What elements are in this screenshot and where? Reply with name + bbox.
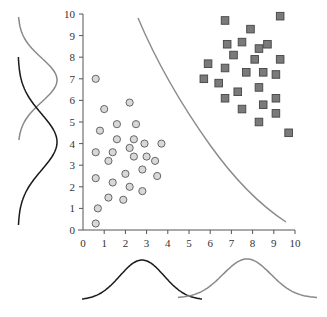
circle-point xyxy=(113,136,120,143)
square-point xyxy=(272,94,280,102)
y-tick-label: 9 xyxy=(70,30,76,42)
square-point xyxy=(251,56,259,64)
circle-point xyxy=(151,157,158,164)
circle-point xyxy=(130,153,137,160)
y-tick-label: 10 xyxy=(64,8,76,20)
circle-point xyxy=(139,188,146,195)
circle-point xyxy=(154,172,161,179)
circle-point xyxy=(92,220,99,227)
square-point xyxy=(204,60,212,68)
x-tick-label: 6 xyxy=(207,237,213,249)
square-point xyxy=(238,105,246,113)
square-point xyxy=(221,94,229,102)
x-tick-label: 0 xyxy=(80,237,86,249)
circle-point xyxy=(139,166,146,173)
y-marginal-distributions xyxy=(18,17,57,225)
boundary-curve xyxy=(138,18,286,222)
circle-point xyxy=(94,205,101,212)
square-point xyxy=(255,84,263,92)
x-tick-label: 7 xyxy=(229,237,235,249)
square-point xyxy=(255,118,263,126)
x-tick-label: 10 xyxy=(290,237,302,249)
circle-point xyxy=(130,136,137,143)
x-tick-label: 8 xyxy=(250,237,256,249)
square-point xyxy=(238,38,246,46)
circle-point xyxy=(132,121,139,128)
square-point xyxy=(272,110,280,118)
square-point xyxy=(259,101,267,109)
square-point xyxy=(221,64,229,72)
square-point xyxy=(200,75,208,83)
square-point xyxy=(242,69,250,77)
squares-x-distribution-curve xyxy=(178,259,317,297)
circle-point xyxy=(126,99,133,106)
square-point xyxy=(259,69,267,77)
y-tick-label: 5 xyxy=(70,116,76,128)
square-point xyxy=(285,129,293,137)
x-tick-label: 9 xyxy=(271,237,277,249)
circles-x-distribution-curve xyxy=(82,260,202,299)
circle-point xyxy=(158,140,165,147)
circle-point xyxy=(92,149,99,156)
circle-point xyxy=(101,105,108,112)
square-point xyxy=(255,45,263,53)
circle-point xyxy=(92,75,99,82)
square-point xyxy=(272,71,280,79)
circle-point xyxy=(113,121,120,128)
y-tick-label: 0 xyxy=(70,224,76,236)
circle-point xyxy=(126,183,133,190)
y-tick-label: 6 xyxy=(70,94,76,106)
squares-y-distribution-curve xyxy=(19,17,57,140)
circle-point xyxy=(120,196,127,203)
circles-y-distribution-curve xyxy=(18,57,57,225)
circle-point xyxy=(141,140,148,147)
square-point xyxy=(234,88,242,96)
x-tick-label: 4 xyxy=(165,237,171,249)
circle-point xyxy=(109,179,116,186)
x-tick-label: 1 xyxy=(101,237,107,249)
y-tick-label: 4 xyxy=(70,138,76,150)
circle-point xyxy=(105,157,112,164)
circle-point xyxy=(96,127,103,134)
y-tick-label: 8 xyxy=(70,51,76,63)
circle-point xyxy=(122,170,129,177)
x-marginal-distributions xyxy=(82,259,317,299)
square-point xyxy=(276,12,284,20)
x-tick-label: 3 xyxy=(144,237,150,249)
circle-point xyxy=(105,194,112,201)
circle-point xyxy=(109,149,116,156)
y-tick-label: 7 xyxy=(70,73,76,85)
square-point xyxy=(221,17,229,25)
y-tick-label: 1 xyxy=(70,202,76,214)
square-point xyxy=(230,51,238,59)
circle-point xyxy=(92,175,99,182)
scatter-diagram: 012345678910012345678910 xyxy=(0,0,327,317)
square-point xyxy=(223,40,231,48)
square-point xyxy=(215,79,223,87)
decision-boundary xyxy=(138,18,286,222)
square-point xyxy=(247,25,255,33)
y-tick-label: 3 xyxy=(70,159,76,171)
y-tick-label: 2 xyxy=(70,181,76,193)
square-point xyxy=(276,56,284,64)
circle-point xyxy=(126,144,133,151)
x-tick-label: 5 xyxy=(186,237,192,249)
circle-point xyxy=(143,153,150,160)
x-tick-label: 2 xyxy=(123,237,129,249)
square-point xyxy=(264,40,272,48)
